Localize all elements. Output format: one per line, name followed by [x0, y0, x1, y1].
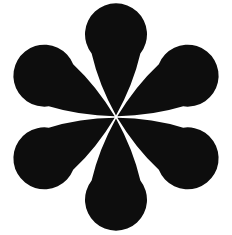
image-canvas: [0, 0, 232, 235]
rosette-graphic: [0, 0, 232, 235]
